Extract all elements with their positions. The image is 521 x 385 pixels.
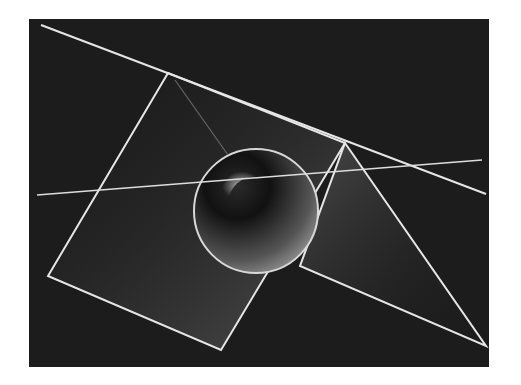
abstract-geometry-render xyxy=(0,0,521,385)
